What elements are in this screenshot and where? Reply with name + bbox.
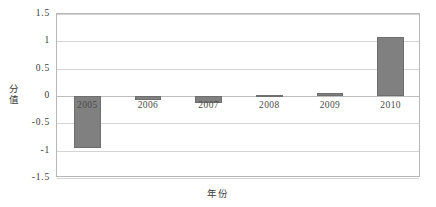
x-label-2008: 2008: [239, 100, 300, 110]
x-axis-title: 年份: [0, 186, 436, 200]
y-tick-label: 1: [0, 35, 56, 45]
x-label-2006: 2006: [118, 100, 179, 110]
x-label-2005: 2005: [57, 100, 118, 110]
gridline-neg1p5: [57, 178, 419, 179]
plot-area: 200520062007200820092010: [56, 13, 420, 177]
y-tick-label: -1: [0, 145, 56, 155]
gridline-0: [57, 96, 419, 97]
gridline-neg0p5: [57, 123, 419, 124]
x-label-2009: 2009: [300, 100, 361, 110]
gridline-1: [57, 41, 419, 42]
x-label-2010: 2010: [360, 100, 421, 110]
bar-chart: 分值 1.510.50-0.5-1-1.5 200520062007200820…: [0, 0, 436, 207]
gridline-neg1: [57, 151, 419, 152]
bar-2009: [317, 93, 344, 96]
x-label-2007: 2007: [178, 100, 239, 110]
gridline-0p5: [57, 69, 419, 70]
bar-2010: [377, 37, 404, 96]
gridline-1p5: [57, 14, 419, 15]
y-tick-label: 0.5: [0, 63, 56, 73]
y-tick-label: 0: [0, 90, 56, 100]
y-tick-label: -1.5: [0, 172, 56, 182]
y-tick-label: 1.5: [0, 8, 56, 18]
bar-2008: [256, 95, 283, 97]
y-tick-label: -0.5: [0, 117, 56, 127]
